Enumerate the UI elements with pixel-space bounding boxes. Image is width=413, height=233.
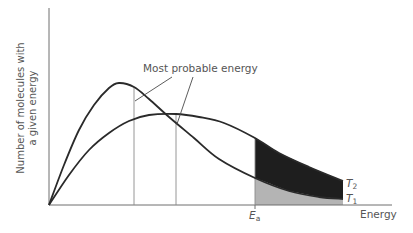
annotation-pointer-t1: [135, 77, 172, 101]
y-axis-label-line1: Number of molecules with: [15, 42, 26, 173]
energy-distribution-chart: Most probable energy Number of molecules…: [0, 0, 413, 233]
x-axis-label: Energy: [360, 208, 397, 220]
t1-label: T1: [346, 192, 357, 206]
t2-label: T2: [346, 177, 357, 191]
annotation-pointer-t2: [177, 77, 193, 124]
ea-label: Ea: [249, 209, 260, 223]
y-axis-label-line2: a given energy: [27, 70, 38, 145]
annotation-most-probable-energy: Most probable energy: [143, 62, 258, 74]
